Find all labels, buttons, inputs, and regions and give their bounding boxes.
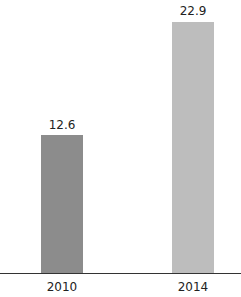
x-tick-label-2014: 2014 xyxy=(163,280,223,294)
x-axis-line xyxy=(0,273,241,274)
x-tick-label-2010: 2010 xyxy=(32,280,92,294)
value-label-2014: 22.9 xyxy=(163,4,223,18)
bar-2014 xyxy=(172,22,214,273)
bar-2010 xyxy=(41,135,83,273)
value-label-2010: 12.6 xyxy=(32,118,92,132)
